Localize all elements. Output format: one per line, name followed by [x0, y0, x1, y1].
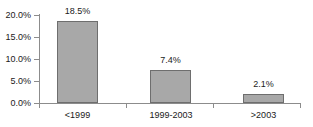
- y-axis-tick: [34, 81, 39, 82]
- bar-chart: 20.0% 15.0% 10.0% 5.0% 0.0% 18.5% 7.4% 2…: [0, 0, 313, 127]
- x-axis-tick: [39, 104, 40, 108]
- bar-value-label: 7.4%: [141, 56, 200, 65]
- x-axis-tick: [126, 104, 127, 108]
- x-axis-category-label: 1999-2003: [130, 111, 212, 120]
- x-axis-category-label: >2003: [231, 111, 296, 120]
- y-axis-tick-label: 15.0%: [0, 33, 31, 42]
- bar-value-label: 2.1%: [234, 80, 293, 89]
- x-axis-tick: [300, 104, 301, 108]
- y-axis-tick-label: 5.0%: [0, 77, 31, 86]
- y-axis-tick: [34, 37, 39, 38]
- y-axis-tick-label: 10.0%: [0, 55, 31, 64]
- bar-value-label: 18.5%: [48, 7, 107, 16]
- y-axis-tick-label: 0.0%: [0, 99, 31, 108]
- bar-series-0-category-2: [243, 94, 284, 103]
- x-axis-line: [39, 103, 301, 104]
- y-axis-tick: [34, 59, 39, 60]
- x-axis-tick: [213, 104, 214, 108]
- x-axis-category-label: <1999: [48, 111, 107, 120]
- y-axis-tick: [34, 15, 39, 16]
- bar-series-0-category-0: [57, 21, 98, 103]
- y-axis-line: [39, 14, 40, 104]
- bar-series-0-category-1: [150, 70, 191, 103]
- y-axis-tick-label: 20.0%: [0, 11, 31, 20]
